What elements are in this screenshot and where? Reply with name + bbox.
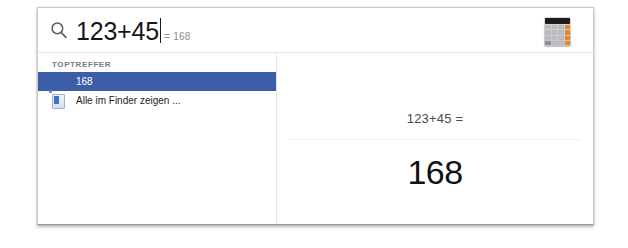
search-query-area[interactable]: 123+45 = 168 bbox=[76, 15, 191, 46]
preview-divider bbox=[289, 139, 581, 140]
text-cursor bbox=[160, 18, 161, 43]
search-icon bbox=[48, 19, 70, 41]
inline-result-suffix: = 168 bbox=[164, 31, 191, 42]
spotlight-window: 123+45 = 168 TOPTR bbox=[37, 7, 594, 225]
window-body: TOPTREFFER 168 bbox=[38, 53, 593, 225]
preview-pane: 123+45 = 168 bbox=[277, 53, 593, 225]
result-row-show-all-in-finder[interactable]: Alle im Finder zeigen ... bbox=[38, 91, 276, 110]
result-row-label: 168 bbox=[76, 76, 93, 87]
screenshot-canvas: 123+45 = 168 TOPTR bbox=[0, 0, 628, 248]
results-group-header: TOPTREFFER bbox=[38, 58, 276, 72]
search-input[interactable]: 123+45 bbox=[76, 17, 159, 46]
result-row-top-hit[interactable]: 168 bbox=[38, 72, 276, 91]
preview-expression: 123+45 = bbox=[277, 111, 593, 126]
calculator-icon bbox=[544, 17, 571, 46]
results-pane: TOPTREFFER 168 bbox=[38, 53, 277, 225]
result-row-label: Alle im Finder zeigen ... bbox=[76, 95, 181, 106]
finder-icon bbox=[52, 94, 66, 108]
search-bar[interactable]: 123+45 = 168 bbox=[38, 8, 593, 53]
preview-result: 168 bbox=[277, 153, 593, 192]
calculator-icon bbox=[52, 75, 66, 89]
